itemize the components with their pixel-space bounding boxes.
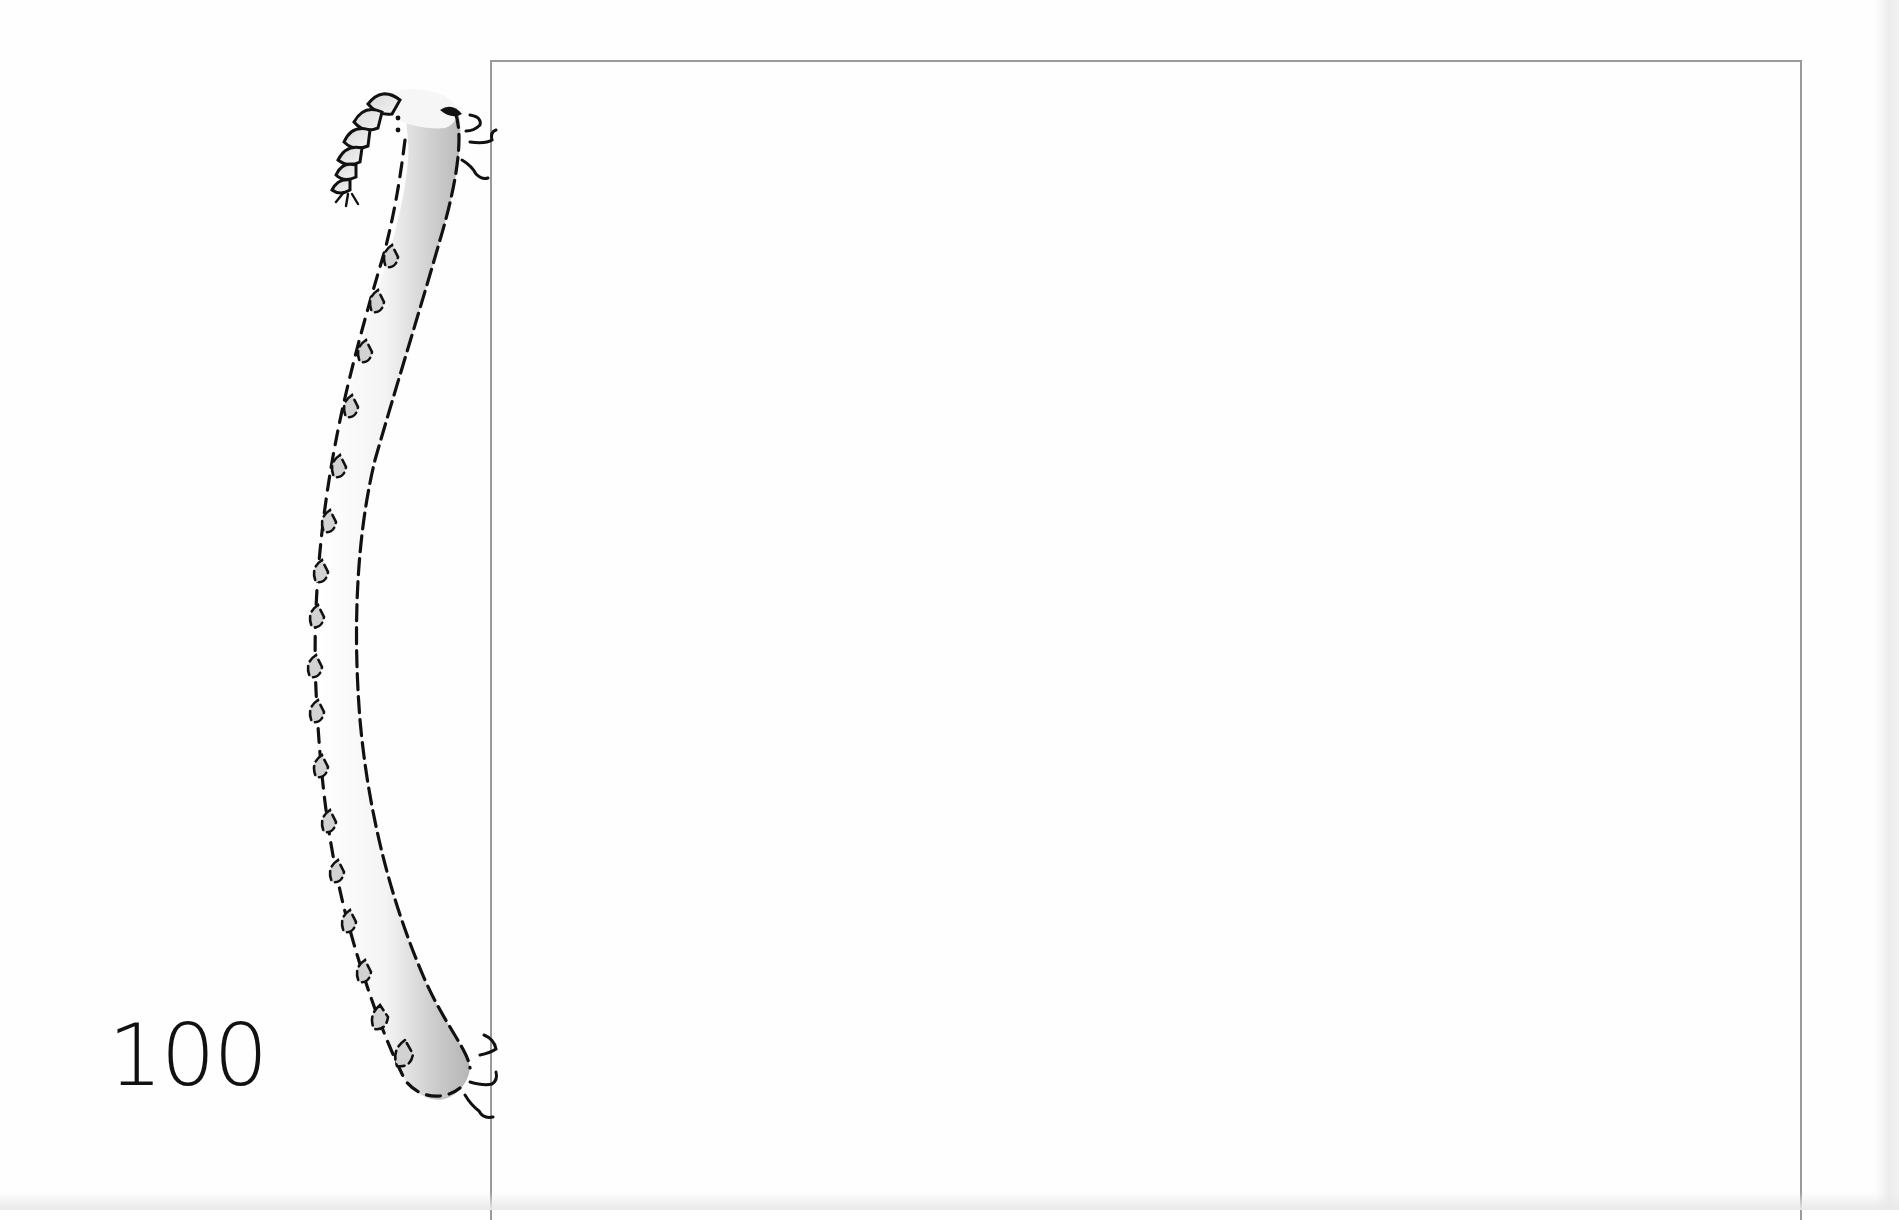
- worm-body: [317, 94, 470, 1100]
- page-number-label: 100: [108, 1012, 266, 1098]
- page-edge-shadow-bottom: [0, 1192, 1899, 1210]
- page-edge-shadow-right: [1875, 0, 1899, 1210]
- worm-eye: [396, 116, 401, 121]
